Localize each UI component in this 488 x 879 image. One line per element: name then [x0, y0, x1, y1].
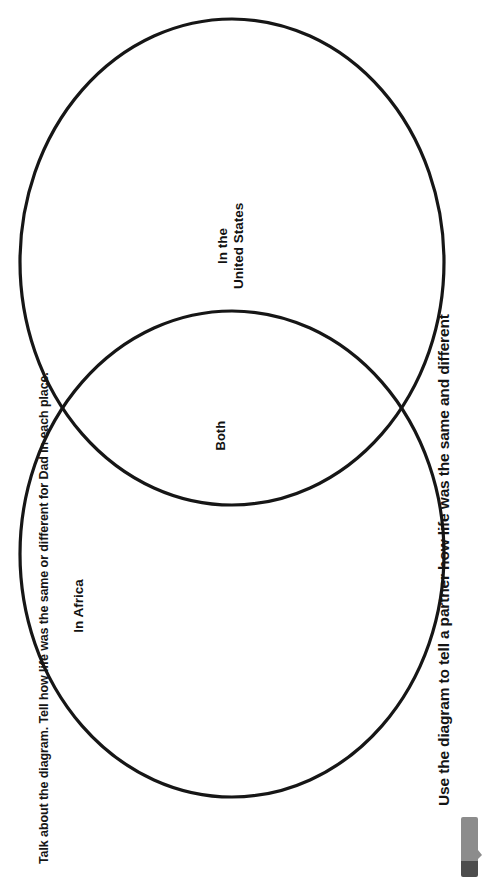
venn-label-right: In the United States [215, 171, 247, 321]
pencil-icon-svg [460, 817, 483, 877]
venn-diagram: In Africa Both In the United States [6, 8, 458, 808]
venn-label-left: In Africa [71, 531, 87, 681]
venn-label-center: Both [213, 361, 228, 511]
venn-svg [6, 8, 458, 808]
pencil-icon [460, 817, 483, 877]
footer-instruction: Use the diagram to tell a partner how li… [435, 12, 453, 872]
venn-label-right-line2: United States [231, 171, 247, 321]
worksheet-page: Talk about the diagram. Tell how life wa… [0, 0, 488, 879]
venn-label-right-line1: In the [215, 228, 230, 264]
